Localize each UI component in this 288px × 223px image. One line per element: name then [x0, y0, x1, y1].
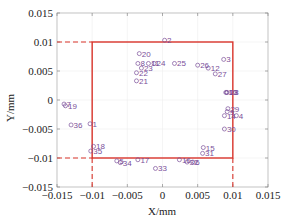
point-label: 19	[68, 102, 77, 111]
data-point: 28	[225, 88, 239, 97]
point-label: 29	[230, 105, 239, 114]
data-point: 25	[172, 59, 186, 68]
point-label: 31	[205, 149, 214, 158]
y-tick-label: −0.01	[28, 152, 53, 164]
y-tick-label: 0.01	[34, 36, 53, 48]
point-label: 32	[190, 158, 199, 167]
point-label: 17	[140, 156, 149, 165]
point-label: 28	[230, 88, 239, 97]
data-point: 30	[222, 125, 236, 134]
data-point: 31	[201, 149, 215, 158]
point-label: 30	[227, 125, 236, 134]
x-tick-label: −0.01	[79, 189, 104, 201]
data-point: 33	[153, 164, 167, 173]
point-label: 35	[93, 147, 102, 156]
circle-marker-icon	[69, 123, 73, 127]
circle-marker-icon	[222, 114, 226, 118]
y-tick-label: 0	[48, 94, 54, 106]
point-label: 21	[139, 77, 148, 86]
point-label: 27	[218, 70, 227, 79]
y-tick-label: 0.005	[28, 65, 53, 77]
circle-marker-icon	[88, 122, 92, 126]
y-tick-label: −0.005	[22, 123, 53, 135]
data-point: 3	[222, 55, 232, 64]
y-tick-label: −0.015	[22, 181, 53, 193]
point-label: 3	[226, 55, 231, 64]
data-point: 35	[89, 147, 103, 156]
point-label: 20	[142, 50, 151, 59]
point-label: 36	[74, 121, 83, 130]
y-axis-title: Y/mm	[4, 94, 16, 123]
circle-marker-icon	[134, 79, 138, 83]
x-tick-label: 0.005	[185, 189, 210, 201]
data-point: 21	[134, 77, 148, 86]
point-label: 26	[200, 61, 209, 70]
x-tick-label: 0.01	[223, 189, 242, 201]
y-tick-label: 0.015	[28, 7, 53, 19]
x-tick-label: 0.015	[256, 189, 281, 201]
circle-marker-icon	[153, 166, 157, 170]
point-label: 34	[123, 159, 132, 168]
axis-ticks: −0.015−0.01−0.00500.0050.010.0150.0150.0…	[22, 7, 281, 201]
circle-marker-icon	[136, 61, 140, 65]
grid-lines	[57, 13, 268, 187]
point-label: 25	[177, 59, 186, 68]
point-label: 4	[239, 112, 244, 121]
data-point: 1	[88, 120, 98, 129]
circle-marker-icon	[201, 151, 205, 155]
circle-marker-icon	[137, 52, 141, 56]
x-tick-label: −0.005	[112, 189, 143, 201]
point-label: 1	[93, 120, 98, 129]
x-axis-title: X/mm	[148, 205, 177, 217]
scatter-chart: −0.015−0.01−0.00500.0050.010.0150.0150.0…	[0, 0, 288, 223]
point-label: 2	[167, 36, 172, 45]
data-point: 36	[69, 121, 83, 130]
x-tick-label: 0	[160, 189, 166, 201]
data-point: 20	[137, 50, 151, 59]
circle-marker-icon	[172, 61, 176, 65]
data-points: 1234567891011121314151617181920212223242…	[62, 36, 244, 173]
circle-marker-icon	[134, 71, 138, 75]
data-point: 2	[163, 36, 173, 45]
point-label: 24	[157, 59, 166, 68]
data-point: 17	[136, 156, 150, 165]
circle-marker-icon	[222, 57, 226, 61]
point-label: 33	[158, 164, 167, 173]
point-label: 23	[144, 64, 153, 73]
